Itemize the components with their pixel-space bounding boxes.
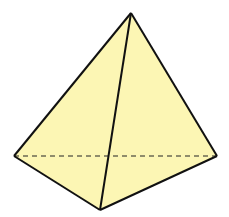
- tetrahedron-diagram: [0, 0, 229, 217]
